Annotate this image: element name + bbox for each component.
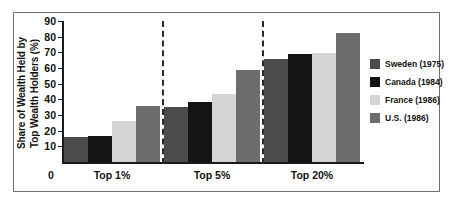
bar — [112, 121, 136, 162]
y-tick-mark — [58, 37, 63, 38]
x-axis-line — [62, 162, 364, 164]
legend-item[interactable]: Sweden (1975) — [370, 55, 454, 73]
legend-item[interactable]: France (1986) — [370, 91, 454, 109]
bar — [236, 70, 260, 162]
y-tick-label: 30 — [32, 109, 56, 121]
bar — [64, 137, 88, 162]
x-axis-group-label: Top 20% — [262, 169, 362, 181]
group-separator-line — [162, 21, 164, 164]
bar — [188, 102, 212, 162]
bar — [264, 59, 288, 162]
legend-label: U.S. (1986) — [385, 113, 428, 123]
x-axis-group-label: Top 1% — [62, 169, 162, 181]
y-tick-label: 50 — [32, 78, 56, 90]
legend-item[interactable]: Canada (1984) — [370, 73, 454, 91]
plot-area: 908070605040302010 Top 1%Top 5%Top 20% — [62, 21, 362, 164]
y-tick-label: 60 — [32, 62, 56, 74]
y-tick-label: 80 — [32, 31, 56, 43]
bar — [88, 136, 112, 162]
x-axis-group-label: Top 5% — [162, 169, 262, 181]
bar — [336, 33, 360, 162]
y-tick-label: 20 — [32, 125, 56, 137]
y-tick-mark — [58, 84, 63, 85]
legend-label: Canada (1984) — [385, 77, 443, 87]
legend-color-swatch — [370, 77, 380, 87]
chart-legend: Sweden (1975)Canada (1984)France (1986)U… — [370, 55, 454, 127]
legend-item[interactable]: U.S. (1986) — [370, 109, 454, 127]
y-tick-mark — [58, 115, 63, 116]
legend-label: France (1986) — [385, 95, 440, 105]
y-tick-label: 90 — [32, 15, 56, 27]
legend-color-swatch — [370, 113, 380, 123]
y-tick-mark — [58, 131, 63, 132]
y-tick-mark — [58, 52, 63, 53]
y-tick-mark — [58, 21, 63, 22]
bar — [164, 107, 188, 162]
bar — [136, 106, 160, 162]
legend-label: Sweden (1975) — [385, 59, 444, 69]
chart-figure: Share of Wealth Held by Top Wealth Holde… — [13, 12, 440, 192]
legend-color-swatch — [370, 95, 380, 105]
y-tick-label: 40 — [32, 93, 56, 105]
y-tick-mark — [58, 146, 63, 147]
bar — [212, 94, 236, 162]
bar — [312, 53, 336, 162]
legend-color-swatch — [370, 59, 380, 69]
group-separator-line — [262, 21, 264, 164]
bar — [288, 54, 312, 162]
y-tick-mark — [58, 68, 63, 69]
y-axis-title-line-1: Share of Wealth Held by — [16, 19, 27, 167]
y-tick-label: 70 — [32, 46, 56, 58]
y-tick-label: 10 — [32, 140, 56, 152]
y-tick-mark — [58, 99, 63, 100]
x-axis-origin-label: 0 — [48, 169, 54, 181]
